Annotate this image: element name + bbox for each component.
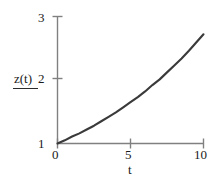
y-axis-title-rule (13, 88, 38, 89)
x-axis-tick-label-10: 10 (194, 148, 207, 161)
y-axis-tick-label-3: 3 (38, 11, 45, 24)
y-axis-tick-label-1: 1 (38, 137, 45, 150)
y-axis-title: z(t) (14, 72, 32, 85)
data-curve-zt (58, 34, 204, 143)
x-axis-tick-label-0: 0 (52, 148, 59, 161)
plot-area (0, 0, 215, 179)
x-axis-title: t (128, 163, 132, 176)
chart-figure: 3 2 1 0 5 10 z(t) t (0, 0, 215, 179)
y-axis-tick-label-2: 2 (38, 72, 45, 85)
x-axis-tick-label-5: 5 (125, 148, 132, 161)
